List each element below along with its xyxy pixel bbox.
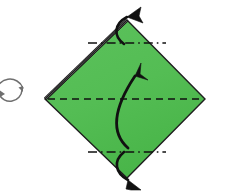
origami-diagram xyxy=(0,0,228,195)
diagram-canvas xyxy=(0,0,228,195)
